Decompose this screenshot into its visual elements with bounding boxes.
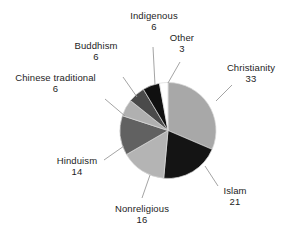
pie-label-hinduism-name: Hinduism: [44, 155, 110, 166]
pie-label-islam-name: Islam: [212, 185, 258, 196]
pie-label-indigenous: Indigenous 6: [118, 10, 190, 32]
leader-line-other: [168, 62, 180, 83]
pie-chart-figure: Indigenous 6 Other 3 Christianity 33 Bud…: [0, 0, 291, 241]
pie-label-buddhism-name: Buddhism: [61, 40, 131, 51]
leader-line-nonreligious: [142, 175, 150, 198]
pie-slice-group: [120, 83, 216, 179]
pie-label-indigenous-name: Indigenous: [118, 10, 190, 21]
pie-label-islam: Islam 21: [212, 185, 258, 207]
pie-label-other-name: Other: [158, 32, 206, 43]
pie-label-chinese-traditional-name: Chinese traditional: [7, 72, 104, 83]
pie-label-hinduism: Hinduism 14: [44, 155, 110, 177]
pie-label-nonreligious: Nonreligious 16: [99, 203, 185, 225]
pie-label-other: Other 3: [158, 32, 206, 54]
pie-label-nonreligious-name: Nonreligious: [99, 203, 185, 214]
pie-label-nonreligious-value: 16: [99, 214, 185, 225]
pie-label-islam-value: 21: [212, 196, 258, 207]
leader-line-indigenous: [153, 47, 155, 85]
pie-label-buddhism-value: 6: [61, 51, 131, 62]
pie-label-christianity-name: Christianity: [215, 62, 287, 73]
leader-line-islam: [205, 166, 218, 186]
pie-label-chinese-traditional: Chinese traditional 6: [7, 72, 104, 94]
pie-label-hinduism-value: 14: [44, 166, 110, 177]
leader-line-chinese-traditional: [105, 99, 125, 116]
pie-label-other-value: 3: [158, 43, 206, 54]
pie-label-chinese-traditional-value: 6: [7, 83, 104, 94]
pie-label-buddhism: Buddhism 6: [61, 40, 131, 62]
leader-line-christianity: [216, 85, 232, 101]
pie-label-christianity-value: 33: [215, 73, 287, 84]
pie-label-christianity: Christianity 33: [215, 62, 287, 84]
leader-line-buddhism: [123, 77, 137, 97]
pie-label-indigenous-value: 6: [118, 21, 190, 32]
